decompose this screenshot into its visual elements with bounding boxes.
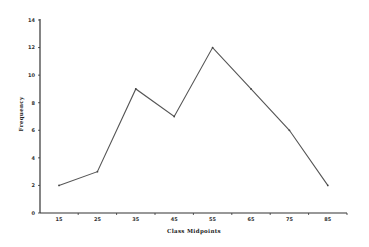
y-tick-label: 14: [28, 17, 35, 23]
data-point: [250, 88, 252, 90]
x-tick-label: 35: [132, 216, 139, 222]
data-point: [289, 129, 291, 131]
y-tick-label: 0: [32, 210, 36, 216]
data-point: [58, 185, 60, 187]
y-tick-label: 6: [32, 127, 36, 133]
frequency-polygon-chart: 02468101214 1525354555657585 Class Midpo…: [0, 0, 369, 247]
data-point: [173, 116, 175, 118]
y-axis-title: Frequency: [18, 96, 25, 131]
data-point: [212, 47, 214, 49]
data-point: [97, 171, 99, 173]
x-tick-label: 85: [324, 216, 331, 222]
y-tick-label: 4: [32, 155, 36, 161]
data-point: [135, 88, 137, 90]
x-tick-label: 75: [286, 216, 293, 222]
y-tick-label: 12: [28, 44, 35, 50]
y-tick-label: 8: [32, 100, 36, 106]
x-tick-label: 25: [94, 216, 101, 222]
x-tick-label: 15: [56, 216, 63, 222]
y-tick-label: 10: [28, 72, 35, 78]
x-tick-label: 55: [209, 216, 216, 222]
x-tick-label: 65: [248, 216, 255, 222]
x-axis-title: Class Midpoints: [167, 228, 221, 235]
data-point: [327, 185, 329, 187]
x-axis-ticks: 1525354555657585: [56, 213, 347, 222]
x-tick-label: 45: [171, 216, 178, 222]
frequency-line: [59, 48, 328, 186]
y-tick-label: 2: [32, 182, 36, 188]
y-axis-ticks: 02468101214: [28, 17, 40, 216]
data-points: [58, 47, 329, 187]
